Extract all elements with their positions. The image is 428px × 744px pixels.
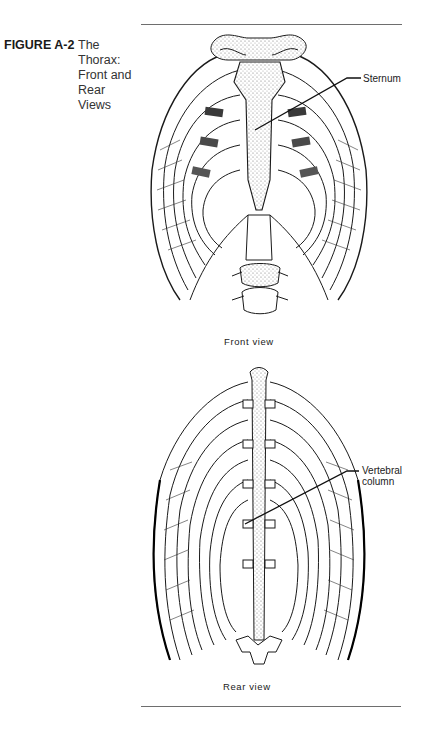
front-view-caption: Front view [224, 336, 274, 347]
vertebral-column-label-line: column [362, 476, 402, 487]
front-view-ribcage [151, 35, 367, 314]
rear-view-caption: Rear view [223, 681, 271, 692]
rear-view-ribcage [153, 368, 364, 665]
vertebral-column-label-line: Vertebral [362, 465, 402, 476]
vertebral-column-label: Vertebral column [362, 465, 402, 487]
sternum-label: Sternum [363, 73, 401, 84]
bottom-rule [141, 706, 401, 707]
thorax-illustration [0, 0, 428, 744]
